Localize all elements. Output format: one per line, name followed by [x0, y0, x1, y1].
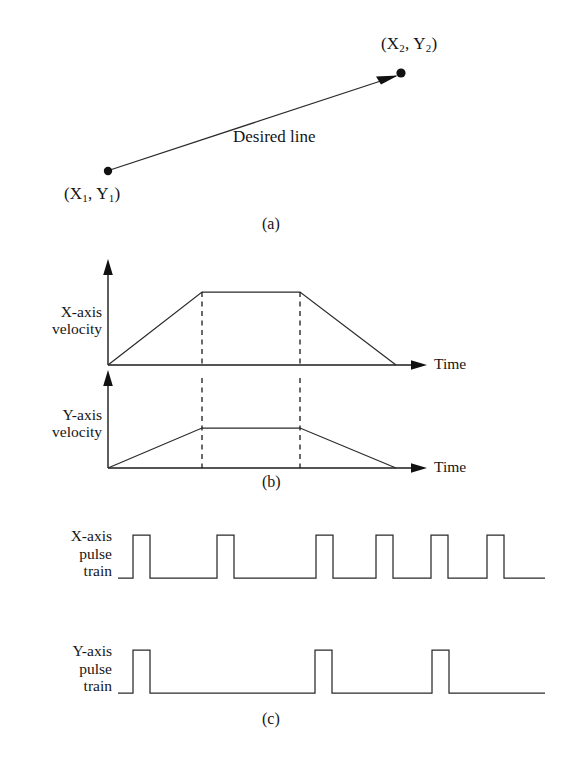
x-pulse-train-label-line3: train	[26, 562, 112, 580]
y-velocity-y-axis-arrowhead	[103, 370, 113, 386]
time-label-lower: Time	[434, 458, 466, 475]
x-velocity-y-axis-arrowhead	[103, 259, 113, 275]
y-pulse-train-label-line3: train	[26, 677, 112, 695]
figure-root: (X2, Y2) Desired line (X1, Y1) (a) X-axi…	[0, 0, 571, 762]
y-velocity-trapezoid	[108, 428, 396, 468]
x-pulse-train-label: X-axis pulse train	[26, 527, 112, 580]
end-point-label: (X2, Y2)	[381, 34, 437, 53]
caption-b: (b)	[262, 473, 281, 491]
y-pulse-train-label: Y-axis pulse train	[26, 642, 112, 695]
end-point-dot	[396, 68, 405, 77]
panel-a-desired-line	[104, 68, 406, 175]
y-pulse-train-waveform	[118, 650, 545, 693]
desired-line-arrowhead	[376, 76, 398, 85]
caption-c: (c)	[262, 710, 280, 728]
caption-a: (a)	[262, 215, 280, 233]
time-label-upper: Time	[434, 355, 466, 372]
panel-c-pulse-trains	[118, 535, 545, 693]
x-pulse-train-waveform	[118, 535, 545, 578]
y-pulse-train-label-line1: Y-axis	[26, 642, 112, 660]
x-pulse-train-label-line2: pulse	[26, 545, 112, 563]
x-velocity-axis-label: X-axis velocity	[24, 303, 102, 338]
start-point-dot	[104, 167, 112, 175]
y-velocity-time-axis-arrowhead	[411, 463, 427, 473]
x-velocity-axis-label-line2: velocity	[24, 320, 102, 337]
y-velocity-axis-label-line2: velocity	[24, 423, 102, 440]
start-point-label: (X1, Y1)	[64, 184, 120, 203]
y-velocity-axis-label: Y-axis velocity	[24, 406, 102, 441]
desired-line-label: Desired line	[233, 127, 316, 146]
x-pulse-train-label-line1: X-axis	[26, 527, 112, 545]
desired-line-segment	[110, 76, 396, 170]
y-pulse-train-label-line2: pulse	[26, 660, 112, 678]
x-velocity-axis-label-line1: X-axis	[24, 303, 102, 320]
x-velocity-trapezoid	[108, 292, 396, 365]
panel-b-velocity-profiles	[103, 259, 427, 473]
y-velocity-axis-label-line1: Y-axis	[24, 406, 102, 423]
x-velocity-time-axis-arrowhead	[411, 360, 427, 370]
